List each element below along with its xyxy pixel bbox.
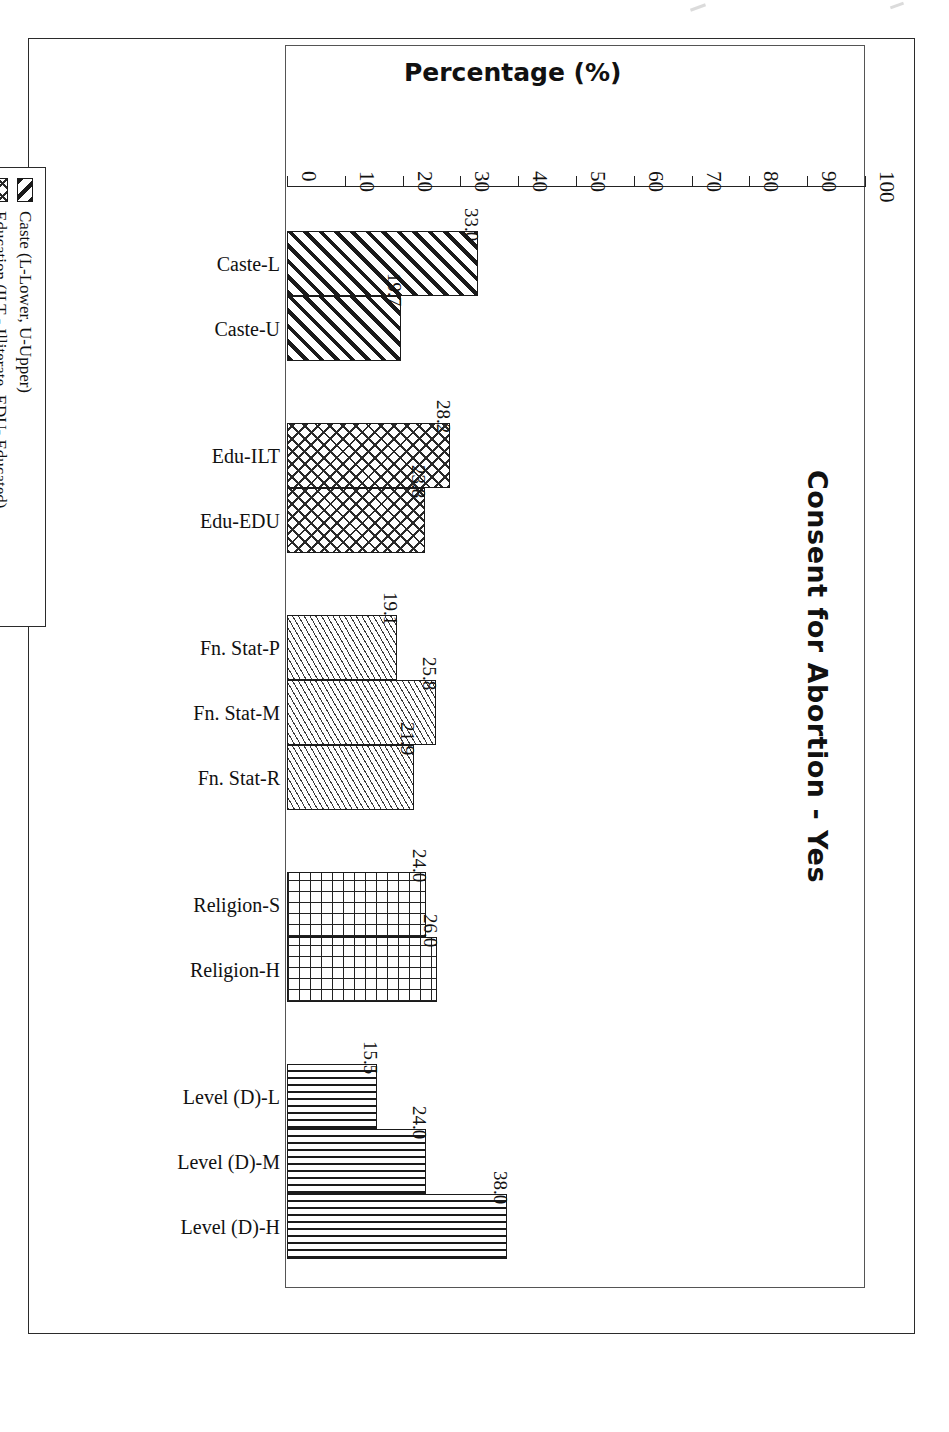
bar-value-label: 19.1	[379, 592, 401, 625]
legend-item[interactable]: Caste (L-Lower, U-Upper)	[13, 178, 38, 616]
scan-speckle	[690, 3, 706, 11]
scan-speckle	[890, 2, 904, 10]
bar[interactable]: Religion-H26.0	[287, 937, 437, 1002]
bar-value-label: 15.5	[359, 1041, 381, 1074]
bar[interactable]: Edu-EDU23.8	[287, 488, 425, 553]
axis-tick	[865, 176, 866, 187]
bar-category-label: Level (D)-H	[181, 1215, 280, 1238]
legend: Caste (L-Lower, U-Upper)Education (ILT -…	[0, 167, 46, 627]
legend-label: Caste (L-Lower, U-Upper)	[17, 211, 34, 393]
bar[interactable]: Fn. Stat-R21.9	[287, 745, 414, 810]
bar-category-label: Religion-S	[193, 893, 280, 916]
bar-value-label: 33.0	[460, 208, 482, 241]
bar[interactable]: Caste-U19.7	[287, 296, 401, 361]
bar[interactable]: Level (D)-L15.5	[287, 1064, 377, 1129]
bar-value-label: 23.8	[407, 465, 429, 498]
bar-value-label: 24.0	[408, 849, 430, 882]
bar-value-label: 38.0	[489, 1171, 511, 1204]
axis-tick-label: 0	[296, 171, 321, 182]
chart-page: Percentage (%) Consent for Abortion - Ye…	[0, 0, 949, 1432]
bar-category-label: Religion-H	[190, 958, 280, 981]
bar-value-label: 28.2	[432, 400, 454, 433]
bars-layer: Caste-L33.0Caste-U19.7Edu-ILT28.2Edu-EDU…	[287, 186, 865, 1286]
bar[interactable]: Level (D)-H38.0	[287, 1194, 507, 1259]
axis-tick-label: 100	[874, 171, 899, 203]
bar-category-label: Caste-L	[217, 252, 280, 275]
bar-category-label: Fn. Stat-P	[200, 636, 280, 659]
bar-category-label: Edu-ILT	[212, 444, 280, 467]
legend-swatch-icon	[18, 178, 34, 202]
bar[interactable]: Level (D)-M24.0	[287, 1129, 426, 1194]
bar-category-label: Level (D)-M	[177, 1150, 280, 1173]
bar-category-label: Fn. Stat-M	[193, 701, 280, 724]
bar-value-label: 21.9	[396, 722, 418, 755]
bar[interactable]: Fn. Stat-P19.1	[287, 615, 397, 680]
legend-swatch-icon	[0, 178, 9, 202]
bar-category-label: Fn. Stat-R	[198, 766, 280, 789]
bar[interactable]: Religion-S24.0	[287, 872, 426, 937]
bar-value-label: 26.0	[419, 914, 441, 947]
bar-category-label: Edu-EDU	[200, 509, 280, 532]
bar-value-label: 25.8	[418, 657, 440, 690]
axis-title: Percentage (%)	[404, 58, 621, 87]
bar-category-label: Caste-U	[214, 317, 280, 340]
legend-item[interactable]: Education (ILT - Illiterate, EDU- Educat…	[0, 178, 13, 616]
bar-value-label: 24.0	[408, 1106, 430, 1139]
bar-category-label: Level (D)-L	[183, 1085, 280, 1108]
legend-label: Education (ILT - Illiterate, EDU- Educat…	[0, 211, 9, 508]
bar-value-label: 19.7	[383, 273, 405, 306]
